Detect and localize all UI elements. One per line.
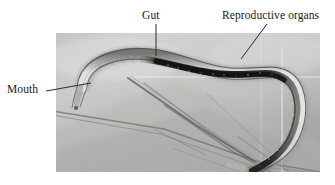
photo-grain bbox=[56, 33, 320, 172]
figure-root: Gut Reproductive organs Mouth bbox=[0, 0, 335, 185]
micrograph-canvas bbox=[56, 33, 320, 172]
micrograph-photo bbox=[56, 33, 320, 172]
annotation-label-mouth: Mouth bbox=[7, 83, 38, 96]
annotation-label-reproductive-organs: Reproductive organs bbox=[222, 9, 319, 22]
annotation-label-gut: Gut bbox=[142, 9, 160, 22]
